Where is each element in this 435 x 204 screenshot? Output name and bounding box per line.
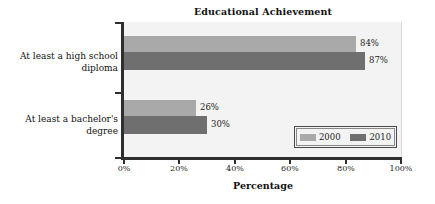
x-axis-tick-label-20: 20% <box>159 164 199 173</box>
y-axis-line <box>121 22 124 158</box>
bar-2010-high-school <box>124 52 365 70</box>
x-axis-tick-label-40: 40% <box>215 164 255 173</box>
x-axis-line <box>121 157 402 160</box>
category-label-bachelors-line2: degree <box>0 125 118 137</box>
bar-value-2010-bachelors: 30% <box>211 119 230 129</box>
legend-swatch-2010-icon <box>350 134 366 141</box>
bar-value-2000-high-school: 84% <box>360 38 379 48</box>
bar-value-2010-high-school: 87% <box>369 55 388 65</box>
bar-2000-high-school <box>124 36 356 52</box>
category-label-high-school-line2: diploma <box>0 62 118 74</box>
category-label-high-school: At least a high school diploma <box>0 50 118 74</box>
legend-swatch-2000-icon <box>300 134 316 141</box>
y-axis-tick-bottom <box>115 157 122 159</box>
category-label-bachelors: At least a bachelor's degree <box>0 113 118 137</box>
x-axis-tick-label-80: 80% <box>326 164 366 173</box>
bar-2010-bachelors <box>124 116 207 134</box>
legend-label-2010: 2010 <box>369 132 391 142</box>
category-label-bachelors-line1: At least a bachelor's <box>0 113 118 125</box>
chart-title: Educational Achievement <box>124 6 402 17</box>
legend-item-2000: 2000 <box>300 132 341 142</box>
legend-label-2000: 2000 <box>319 132 341 142</box>
legend-item-2010: 2010 <box>350 132 391 142</box>
x-axis-tick-label-60: 60% <box>270 164 310 173</box>
x-axis-tick-label-100: 100% <box>381 164 421 173</box>
y-axis-tick-top <box>115 22 122 24</box>
bar-value-2000-bachelors: 26% <box>200 102 219 112</box>
chart-legend: 2000 2010 <box>294 126 397 148</box>
x-axis-tick-label-0: 0% <box>104 164 144 173</box>
educational-achievement-chart: Educational Achievement 84% 87% 26% 30% … <box>0 0 435 204</box>
category-label-high-school-line1: At least a high school <box>0 50 118 62</box>
bar-2000-bachelors <box>124 100 196 116</box>
x-axis-title: Percentage <box>124 180 402 191</box>
y-axis-tick-mid <box>115 92 122 94</box>
